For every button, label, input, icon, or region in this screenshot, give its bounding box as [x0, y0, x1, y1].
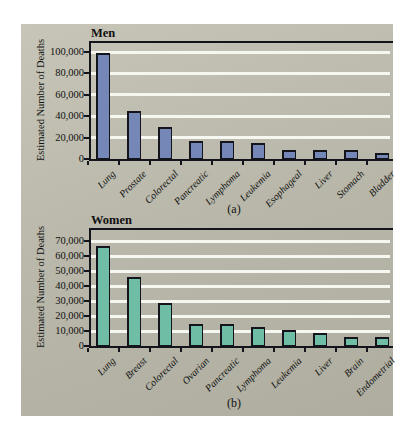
x-tick-men [180, 161, 182, 165]
bar-women-endometrial [375, 337, 389, 346]
women-chart-title: Women [91, 213, 132, 227]
x-tick-men [273, 161, 275, 165]
bar-women-breast [127, 277, 141, 346]
y-tick-label-men-20000: 20,000 [55, 132, 84, 144]
chart-panel-background [21, 24, 393, 416]
women-y-axis-label: Estimated Number of Deaths [35, 226, 47, 348]
y-tick-label-men-80000: 80,000 [55, 67, 84, 79]
bar-men-leukemia [251, 143, 265, 159]
x-tick-women [304, 348, 306, 352]
y-tick-label-women-0: 0 [79, 340, 84, 352]
gridline-women-50000 [89, 270, 390, 273]
bar-men-pancreatic [189, 141, 203, 159]
bar-men-prostate [127, 111, 141, 159]
bar-women-liver [313, 333, 327, 346]
plot-top-border-women [89, 228, 393, 230]
plot-top-border-men [89, 41, 393, 43]
bar-women-lung [96, 246, 110, 347]
bar-women-brain [344, 337, 358, 346]
bar-women-ovarian [189, 324, 203, 347]
y-tick-label-women-20000: 20,000 [55, 310, 84, 322]
x-tick-women [149, 348, 151, 352]
x-tick-women [180, 348, 182, 352]
y-tick-label-men-60000: 60,000 [55, 89, 84, 101]
bar-women-colorectal [158, 303, 172, 347]
x-tick-women [273, 348, 275, 352]
x-tick-men [149, 161, 151, 165]
y-axis-line-men [89, 41, 91, 161]
gridline-women-70000 [89, 240, 390, 243]
bar-women-lymphoma [251, 327, 265, 346]
men-chart-title: Men [91, 26, 115, 40]
x-tick-women [87, 348, 89, 352]
y-tick-label-women-10000: 10,000 [55, 325, 84, 337]
bar-men-lymphoma [220, 141, 234, 159]
gridline-men-80000 [89, 72, 390, 75]
x-tick-women [335, 348, 337, 352]
x-axis-line-men [89, 159, 393, 161]
y-tick-label-men-40000: 40,000 [55, 110, 84, 122]
y-tick-label-women-70000: 70,000 [55, 235, 84, 247]
bar-men-stomach [344, 150, 358, 159]
y-axis-line-women [89, 228, 91, 348]
bar-men-esophageal [282, 150, 296, 159]
x-tick-women [118, 348, 120, 352]
gridline-men-100000 [89, 51, 390, 54]
y-tick-label-women-30000: 30,000 [55, 295, 84, 307]
x-tick-women [242, 348, 244, 352]
bar-men-colorectal [158, 127, 172, 159]
x-tick-men [87, 161, 89, 165]
y-tick-label-men-100000: 100,000 [50, 46, 84, 58]
x-tick-women [211, 348, 213, 352]
cancer-deaths-figure: Men Estimated Number of Deaths (a) Women… [0, 0, 409, 434]
gridline-women-60000 [89, 255, 390, 258]
bar-women-leukemia [282, 330, 296, 347]
x-tick-men [118, 161, 120, 165]
subfigure-label-a: (a) [89, 203, 379, 216]
men-y-axis-label: Estimated Number of Deaths [35, 39, 47, 161]
x-axis-line-women [89, 346, 393, 348]
y-tick-label-women-50000: 50,000 [55, 265, 84, 277]
y-tick-label-men-0: 0 [79, 153, 84, 165]
x-tick-men [366, 161, 368, 165]
bar-men-lung [96, 53, 110, 159]
gridline-men-60000 [89, 93, 390, 96]
x-tick-men [335, 161, 337, 165]
x-tick-women [366, 348, 368, 352]
x-tick-men [242, 161, 244, 165]
subfigure-label-b: (b) [89, 397, 379, 410]
bar-women-pancreatic [220, 324, 234, 346]
bar-men-liver [313, 150, 327, 159]
x-tick-men [211, 161, 213, 165]
y-tick-label-women-40000: 40,000 [55, 280, 84, 292]
x-tick-men [304, 161, 306, 165]
y-tick-label-women-60000: 60,000 [55, 250, 84, 262]
